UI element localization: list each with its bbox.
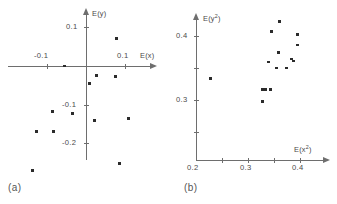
panel-b-y-axis xyxy=(196,20,197,161)
data-point xyxy=(71,112,74,115)
panel-a-ytick-label--0.1: -0.1 xyxy=(62,101,76,109)
panel-a-xtick-0.1 xyxy=(125,64,126,69)
data-point xyxy=(114,75,117,78)
data-point xyxy=(31,169,34,172)
data-point xyxy=(63,65,66,68)
panel-a-ytick--0.2 xyxy=(84,143,89,144)
panel-b-xtick-label-0.4: 0.4 xyxy=(292,164,303,172)
data-point xyxy=(264,88,267,91)
panel-b-x-axis-label: E(x2) xyxy=(294,146,312,153)
figure-root: -0.1 0.1 0.1 -0.1 -0.2 E(x) E(y) (a) xyxy=(0,0,337,204)
panel-b-ytick-0.35 xyxy=(194,68,199,69)
panel-b-xtick-0.35 xyxy=(274,158,275,163)
data-point xyxy=(88,82,91,85)
panel-b-ytick-0.3 xyxy=(194,100,199,101)
data-point xyxy=(95,74,98,77)
panel-a: -0.1 0.1 0.1 -0.1 -0.2 E(x) E(y) (a) xyxy=(0,0,170,204)
panel-b-xtick-label-0.2: 0.2 xyxy=(187,164,198,172)
data-point xyxy=(278,20,281,23)
panel-b-y-axis-label-main: E(y xyxy=(203,14,215,23)
panel-b-ytick-label-0.3: 0.3 xyxy=(176,96,187,104)
data-point xyxy=(261,100,264,103)
panel-b-y-axis-arrow xyxy=(193,13,199,20)
panel-b-ytick-label-0.4: 0.4 xyxy=(176,32,187,40)
data-point xyxy=(93,119,96,122)
panel-b-xtick-label-0.3: 0.3 xyxy=(240,164,251,172)
data-point xyxy=(52,130,55,133)
panel-b-ytick-0.4 xyxy=(194,36,199,37)
panel-a-ytick--0.1 xyxy=(84,105,89,106)
data-point xyxy=(285,67,288,70)
data-point xyxy=(118,162,121,165)
data-point xyxy=(115,37,118,40)
panel-a-y-axis-label: E(y) xyxy=(92,10,106,17)
panel-b-x-axis-label-main: E(x xyxy=(294,145,306,154)
panel-b-ytick-0.25 xyxy=(194,132,199,133)
data-point xyxy=(270,30,273,33)
panel-b-x-axis-label-close: ) xyxy=(309,145,312,154)
panel-b-x-axis xyxy=(196,160,324,161)
data-point xyxy=(51,110,54,113)
panel-a-xtick-label-0.1: 0.1 xyxy=(117,52,128,60)
panel-b-y-axis-label: E(y2) xyxy=(203,15,221,22)
panel-a-x-axis-arrow xyxy=(150,63,157,69)
panel-a-x-axis-label: E(x) xyxy=(140,52,154,59)
data-point xyxy=(35,130,38,133)
panel-b: 0.2 0.3 0.4 0.4 0.3 E(x2) E(y2) (b) xyxy=(167,0,337,204)
panel-a-ytick-label--0.2: -0.2 xyxy=(62,139,76,147)
panel-a-ytick-0.1 xyxy=(84,27,89,28)
data-point xyxy=(127,117,130,120)
data-point xyxy=(209,77,212,80)
panel-a-xtick-label--0.1: -0.1 xyxy=(34,52,48,60)
panel-a-y-axis xyxy=(86,15,87,160)
panel-b-caption: (b) xyxy=(184,182,197,193)
panel-a-caption: (a) xyxy=(8,182,21,193)
data-point xyxy=(290,58,293,61)
panel-b-x-axis-arrow xyxy=(323,157,330,163)
data-point xyxy=(275,67,278,70)
panel-b-xtick-0.25 xyxy=(222,158,223,163)
data-point xyxy=(296,44,299,47)
panel-a-xtick--0.1 xyxy=(47,64,48,69)
data-point xyxy=(269,88,272,91)
data-point xyxy=(277,51,280,54)
data-point xyxy=(267,61,270,64)
data-point xyxy=(296,33,299,36)
panel-b-y-axis-label-close: ) xyxy=(218,14,221,23)
panel-a-ytick-label-0.1: 0.1 xyxy=(66,23,77,31)
panel-a-x-axis xyxy=(8,66,151,67)
panel-a-y-axis-arrow xyxy=(83,8,89,15)
